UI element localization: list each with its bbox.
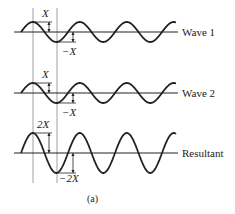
wave-1-neg-amplitude-label: −X (62, 45, 77, 57)
wave-superposition-diagram: Wave 1 X −X Wave 2 X −X Resultant 2X −2X… (0, 0, 235, 214)
resultant-amplitude-label: 2X (37, 118, 51, 130)
figure-caption: (a) (87, 193, 98, 205)
resultant-neg-amplitude-label: −2X (59, 172, 80, 184)
resultant-label: Resultant (182, 147, 224, 159)
wave-1-amplitude-label: X (41, 7, 50, 19)
resultant-amplitude-arrow-arrowhead (47, 133, 50, 136)
wave-1-neg-amplitude-arrow-arrowhead (71, 39, 74, 42)
wave-1-amplitude-arrow-arrowhead (47, 22, 50, 25)
wave-2-neg-amplitude-label: −X (62, 106, 77, 118)
wave-2-amplitude-label: X (41, 68, 50, 80)
resultant-group: Resultant 2X −2X (14, 118, 224, 184)
wave-1-group: Wave 1 X −X (14, 7, 215, 57)
wave-2-neg-amplitude-arrow-arrowhead (71, 100, 74, 103)
wave-2-amplitude-arrow-arrowhead (47, 83, 50, 86)
wave-2-label: Wave 2 (182, 87, 215, 99)
wave-2-group: Wave 2 X −X (14, 68, 215, 118)
wave-1-label: Wave 1 (182, 26, 215, 38)
